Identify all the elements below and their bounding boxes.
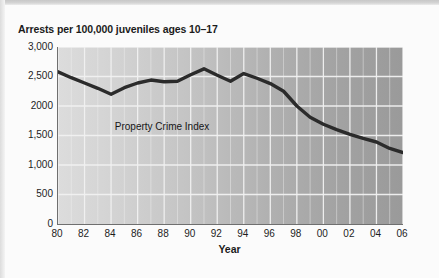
y-axis-tick-label: 1,000 <box>9 159 53 170</box>
x-axis-tick-label: 86 <box>124 228 150 239</box>
line-chart-figure: Arrests per 100,000 juveniles ages 10–17… <box>0 0 439 278</box>
x-axis-tick-labels: 8082848688909294969800020406 <box>57 228 402 244</box>
x-axis-tick-label: 84 <box>97 228 123 239</box>
y-axis-tick-label: 500 <box>9 188 53 199</box>
y-axis-tick-label: 3,000 <box>9 41 53 52</box>
x-axis-tick-label: 06 <box>389 228 415 239</box>
x-axis-tick-label: 88 <box>150 228 176 239</box>
x-axis-tick-label: 82 <box>71 228 97 239</box>
x-axis-tick-label: 98 <box>283 228 309 239</box>
x-axis-tick-label: 00 <box>309 228 335 239</box>
y-axis-tick-label: 0 <box>9 218 53 229</box>
y-axis-tick-label: 2000 <box>9 100 53 111</box>
x-axis-tick-label: 92 <box>203 228 229 239</box>
y-axis-tick-label: 2,500 <box>9 70 53 81</box>
plot-area <box>57 47 403 225</box>
series-annotation-label: Property Crime Index <box>115 121 209 132</box>
y-axis-tick-label: 1,500 <box>9 129 53 140</box>
x-axis-tick-label: 04 <box>362 228 388 239</box>
x-axis-tick-label: 02 <box>336 228 362 239</box>
x-axis-tick-label: 96 <box>256 228 282 239</box>
x-axis-tick-label: 80 <box>44 228 70 239</box>
plot-svg <box>58 47 403 224</box>
chart-screenshot: Arrests per 100,000 juveniles ages 10–17… <box>0 0 439 278</box>
x-axis-title: Year <box>57 243 402 255</box>
x-axis-tick-label: 90 <box>177 228 203 239</box>
x-axis-tick-label: 94 <box>230 228 256 239</box>
